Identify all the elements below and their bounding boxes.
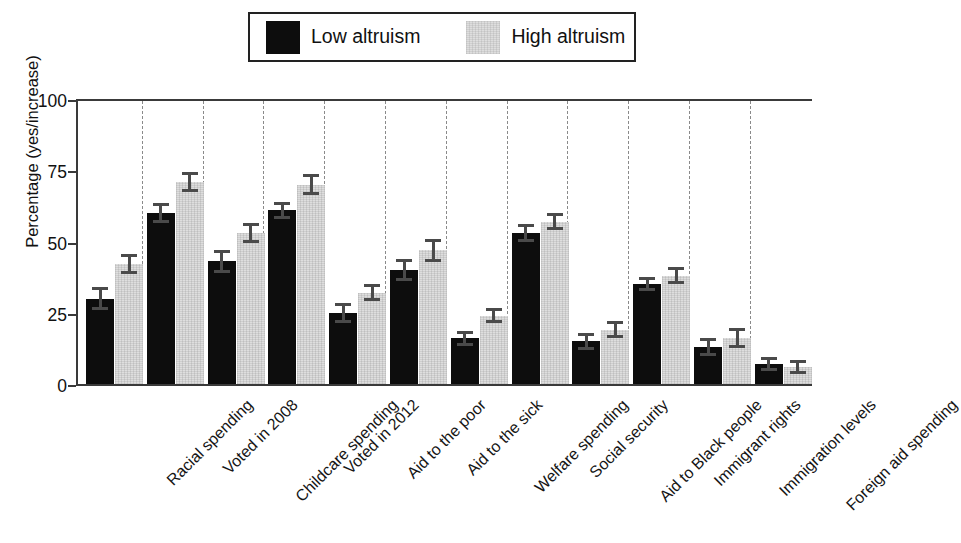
x-axis-line bbox=[76, 384, 812, 386]
bar-low-altruism bbox=[268, 210, 296, 384]
y-axis-title: Percentage (yes/increase) bbox=[23, 17, 42, 287]
x-axis-label: Voted in 2008 bbox=[219, 396, 301, 478]
bar-high-altruism bbox=[601, 330, 629, 384]
error-bar-cap-lower bbox=[578, 347, 594, 350]
error-bar-line bbox=[128, 256, 131, 273]
bar-high-altruism bbox=[176, 182, 204, 384]
error-bar-cap-lower bbox=[274, 216, 290, 219]
bar-group bbox=[451, 99, 508, 384]
error-bar-cap-upper bbox=[335, 303, 351, 306]
error-bar-cap-lower bbox=[121, 271, 137, 274]
error-bar-cap-upper bbox=[243, 223, 259, 226]
error-bar-cap-lower bbox=[92, 307, 108, 310]
y-tick-label-25: 25 bbox=[48, 304, 67, 325]
x-axis-label: Foreign aid spending bbox=[843, 396, 961, 514]
error-bar-cap-lower bbox=[486, 320, 502, 323]
chart-legend: Low altruism High altruism bbox=[248, 12, 636, 62]
bar-group bbox=[268, 99, 325, 384]
bar-high-altruism bbox=[723, 338, 751, 384]
bar-low-altruism bbox=[572, 341, 600, 384]
error-bar-cap-lower bbox=[182, 189, 198, 192]
y-tick-mark-100 bbox=[68, 100, 76, 102]
error-bar-cap-lower bbox=[335, 320, 351, 323]
y-tick-label-75: 75 bbox=[48, 162, 67, 183]
plot-area: 0255075100 bbox=[76, 99, 812, 386]
bar-high-altruism bbox=[358, 293, 386, 384]
error-bar-line bbox=[403, 260, 406, 280]
x-axis-label: Welfare spending bbox=[531, 396, 632, 497]
error-bar-cap-upper bbox=[790, 360, 806, 363]
error-bar-cap-upper bbox=[121, 254, 137, 257]
error-bar-line bbox=[432, 240, 435, 260]
error-bar-line bbox=[188, 173, 191, 190]
bar-low-altruism bbox=[329, 313, 357, 384]
bar-low-altruism bbox=[147, 213, 175, 384]
error-bar-cap-upper bbox=[92, 287, 108, 290]
error-bar-cap-upper bbox=[729, 328, 745, 331]
error-bar-line bbox=[99, 289, 102, 309]
bar-group bbox=[633, 99, 690, 384]
x-axis-label: Childcare spending bbox=[292, 396, 402, 506]
bar-high-altruism bbox=[480, 316, 508, 384]
bar-group bbox=[512, 99, 569, 384]
y-tick-mark-0 bbox=[68, 385, 76, 387]
bar-group bbox=[329, 99, 386, 384]
x-axis-label: Aid to the sick bbox=[463, 396, 546, 479]
error-bar-cap-upper bbox=[182, 172, 198, 175]
error-bar-cap-upper bbox=[303, 174, 319, 177]
x-axis-label: Immigration levels bbox=[776, 396, 880, 500]
y-tick-mark-25 bbox=[68, 314, 76, 316]
error-bar-cap-lower bbox=[303, 192, 319, 195]
bar-group bbox=[572, 99, 629, 384]
error-bar-cap-upper bbox=[274, 202, 290, 205]
y-axis-line bbox=[76, 99, 78, 386]
bar-low-altruism bbox=[694, 347, 722, 384]
bar-high-altruism bbox=[784, 367, 812, 384]
error-bar-cap-lower bbox=[425, 259, 441, 262]
bar-low-altruism bbox=[512, 233, 540, 384]
error-bar-cap-lower bbox=[547, 227, 563, 230]
error-bar-cap-lower bbox=[214, 270, 230, 273]
error-bar-cap-upper bbox=[578, 333, 594, 336]
legend-label-high-altruism: High altruism bbox=[511, 27, 625, 47]
legend-swatch-low-altruism bbox=[266, 21, 300, 54]
error-bar-cap-upper bbox=[457, 331, 473, 334]
error-bar-cap-upper bbox=[761, 357, 777, 360]
error-bar-cap-upper bbox=[486, 308, 502, 311]
error-bar-cap-lower bbox=[518, 239, 534, 242]
legend-entry-high-altruism: High altruism bbox=[466, 14, 625, 60]
y-tick-mark-50 bbox=[68, 243, 76, 245]
bar-high-altruism bbox=[541, 222, 569, 384]
x-axis-label: Aid to Black people bbox=[657, 396, 767, 506]
error-bar-cap-upper bbox=[425, 239, 441, 242]
error-bar-cap-lower bbox=[396, 278, 412, 281]
error-bar-cap-lower bbox=[243, 240, 259, 243]
legend-label-low-altruism: Low altruism bbox=[311, 27, 420, 47]
error-bar-cap-upper bbox=[214, 250, 230, 253]
error-bar-cap-upper bbox=[364, 284, 380, 287]
bar-group bbox=[755, 99, 812, 384]
bar-high-altruism bbox=[115, 264, 143, 384]
error-bar-cap-upper bbox=[668, 267, 684, 270]
error-bar-line bbox=[736, 330, 739, 347]
error-bar-cap-upper bbox=[639, 277, 655, 280]
error-bar-cap-lower bbox=[668, 281, 684, 284]
error-bar-line bbox=[310, 176, 313, 193]
error-bar-cap-upper bbox=[153, 203, 169, 206]
bar-low-altruism bbox=[633, 284, 661, 384]
bar-high-altruism bbox=[419, 250, 447, 384]
y-tick-label-50: 50 bbox=[48, 233, 67, 254]
bar-high-altruism bbox=[297, 185, 325, 385]
bar-low-altruism bbox=[208, 261, 236, 384]
error-bar-cap-upper bbox=[607, 321, 623, 324]
y-tick-mark-75 bbox=[68, 171, 76, 173]
error-bar-line bbox=[220, 252, 223, 272]
bar-group bbox=[147, 99, 204, 384]
legend-swatch-high-altruism bbox=[466, 21, 500, 54]
y-tick-label-0: 0 bbox=[57, 376, 67, 397]
error-bar-cap-lower bbox=[457, 343, 473, 346]
bar-group bbox=[86, 99, 143, 384]
bar-high-altruism bbox=[237, 233, 265, 384]
error-bar-cap-lower bbox=[364, 298, 380, 301]
y-tick-label-100: 100 bbox=[38, 91, 67, 112]
